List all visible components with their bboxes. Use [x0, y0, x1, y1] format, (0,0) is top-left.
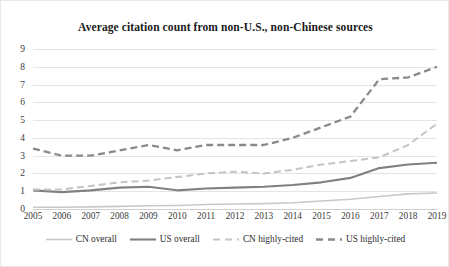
- x-tick-label: 2012: [226, 211, 245, 221]
- series-line-cn-highly-cited: [33, 124, 437, 190]
- x-tick-label: 2005: [24, 211, 43, 221]
- x-tick-label: 2011: [197, 211, 215, 221]
- y-tick-label: 7: [20, 80, 25, 90]
- legend-item-cn-highly-cited[interactable]: CN highly-cited: [213, 234, 303, 244]
- series-line-us-highly-cited: [33, 67, 437, 156]
- x-tick-label: 2019: [428, 211, 447, 221]
- y-axis: 0123456789: [1, 49, 29, 209]
- legend-item-cn-overall[interactable]: CN overall: [46, 234, 117, 244]
- x-tick-label: 2013: [255, 211, 274, 221]
- y-tick-label: 9: [20, 44, 25, 54]
- x-tick-label: 2010: [168, 211, 187, 221]
- y-tick-label: 2: [20, 168, 25, 178]
- page-title: Average citation count from non-U.S., no…: [1, 21, 449, 33]
- legend-item-us-highly-cited[interactable]: US highly-cited: [316, 234, 405, 244]
- x-tick-label: 2014: [283, 211, 302, 221]
- legend: CN overallUS overallCN highly-citedUS hi…: [1, 234, 449, 244]
- series-line-cn-overall: [33, 193, 437, 207]
- x-tick-label: 2015: [312, 211, 331, 221]
- y-tick-label: 6: [20, 97, 25, 107]
- x-tick-label: 2009: [139, 211, 158, 221]
- x-axis: 2005200620072008200920102011201220132014…: [33, 211, 437, 227]
- y-tick-label: 8: [20, 62, 25, 72]
- x-tick-label: 2018: [399, 211, 418, 221]
- x-tick-label: 2007: [81, 211, 100, 221]
- legend-swatch-cn-highly-cited: [213, 235, 239, 244]
- series-line-us-overall: [33, 163, 437, 192]
- legend-label-us-highly-cited: US highly-cited: [346, 234, 405, 244]
- legend-label-cn-overall: CN overall: [76, 234, 117, 244]
- chart-figure: Average citation count from non-U.S., no…: [0, 0, 449, 267]
- plot-area: [33, 49, 437, 209]
- y-tick-label: 1: [20, 186, 25, 196]
- x-tick-label: 2016: [341, 211, 360, 221]
- legend-swatch-cn-overall: [46, 235, 72, 244]
- x-tick-label: 2008: [110, 211, 129, 221]
- legend-item-us-overall[interactable]: US overall: [130, 234, 200, 244]
- series-layer: [33, 49, 437, 209]
- legend-label-cn-highly-cited: CN highly-cited: [243, 234, 303, 244]
- gridline-0: [33, 209, 437, 210]
- y-tick-label: 4: [20, 133, 25, 143]
- y-tick-label: 5: [20, 115, 25, 125]
- y-tick-label: 3: [20, 151, 25, 161]
- legend-label-us-overall: US overall: [160, 234, 200, 244]
- x-tick-label: 2006: [53, 211, 72, 221]
- legend-swatch-us-highly-cited: [316, 235, 342, 244]
- legend-swatch-us-overall: [130, 235, 156, 244]
- x-tick-label: 2017: [370, 211, 389, 221]
